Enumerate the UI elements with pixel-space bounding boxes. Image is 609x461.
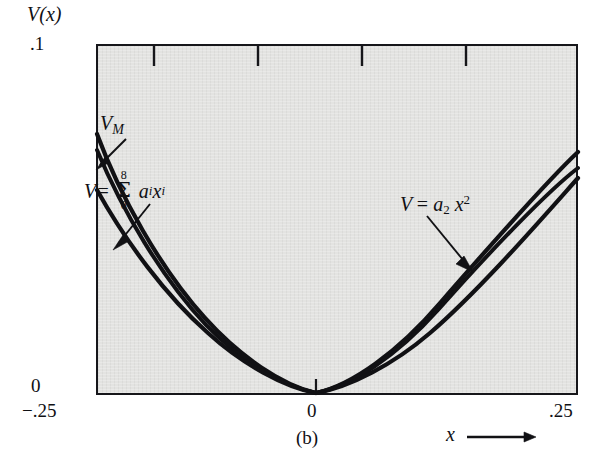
annotation-vm-base: V xyxy=(100,112,112,134)
annotation-poly-exponent: i xyxy=(161,184,165,197)
scan-texture xyxy=(98,46,576,393)
annotation-poly-equals: = xyxy=(96,181,110,201)
x-tick-right-label: .25 xyxy=(549,401,573,420)
x-tick-left-label: −.25 xyxy=(22,401,56,420)
y-tick-top-label: .1 xyxy=(30,34,44,53)
figure-caption: (b) xyxy=(296,428,318,447)
annotation-quad-lhs: V xyxy=(400,193,412,215)
sum-lower-limit: 0 xyxy=(121,200,127,211)
annotation-polynomial: V = 8 Σ 0 aixi xyxy=(84,170,165,212)
annotation-quad-exponent: 2 xyxy=(464,192,471,207)
annotation-poly-variable: x xyxy=(152,181,161,201)
annotation-quad-coefficient: a xyxy=(433,193,443,215)
annotation-quad-coef-subscript: 2 xyxy=(443,202,450,217)
annotation-poly-lhs: V xyxy=(84,181,96,201)
x-tick-mid-label: 0 xyxy=(307,401,317,420)
x-axis-arrow-glyph xyxy=(467,432,536,442)
annotation-poly-coefficient: a xyxy=(139,181,149,201)
summation-operator: 8 Σ 0 xyxy=(117,170,131,212)
annotation-quad-equals: = xyxy=(417,193,428,215)
x-axis-label: x xyxy=(446,424,455,444)
annotation-quad-variable: x xyxy=(455,193,464,215)
plot-area xyxy=(96,44,578,395)
figure-panel: V(x) .1 0 −.25 0 .25 (b) x VM V = 8 Σ 0 … xyxy=(0,0,609,461)
annotation-harmonic: V = a2 x2 xyxy=(400,193,470,216)
y-axis-label: V(x) xyxy=(27,4,61,24)
annotation-vm: VM xyxy=(100,113,124,137)
y-tick-bottom-label: 0 xyxy=(31,376,41,395)
annotation-vm-subscript: M xyxy=(112,122,124,137)
